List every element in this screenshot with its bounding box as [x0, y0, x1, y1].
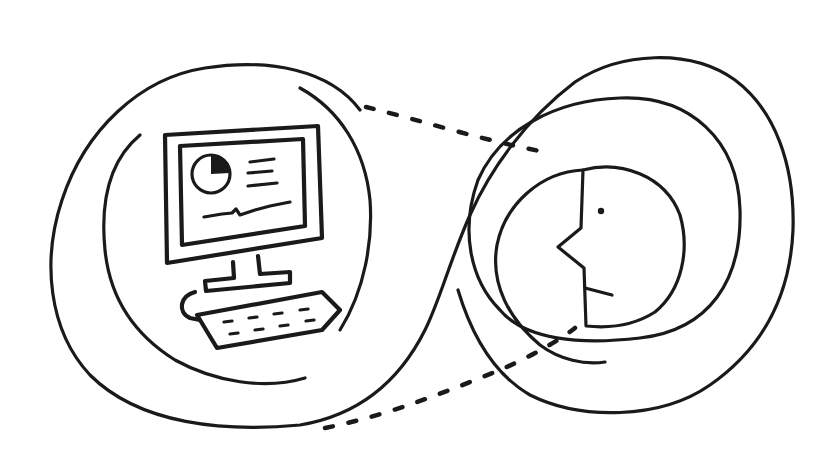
right-middle-ring [469, 98, 740, 341]
screen-text-line-3 [248, 183, 277, 186]
pie-chart-slice [211, 155, 230, 174]
human-computer-interaction-illustration [0, 0, 827, 469]
monitor-screen [180, 139, 305, 245]
monitor-stand [205, 256, 290, 291]
screen-trend-line [204, 202, 290, 217]
keyboard-icon [197, 292, 340, 348]
mouth-line [585, 288, 612, 295]
eye-icon [598, 208, 604, 214]
face-outline [558, 167, 684, 327]
illustration-canvas: Hand-drawn line art: a desktop computer … [0, 0, 827, 469]
left-inner-arc [104, 135, 305, 384]
screen-text-line-2 [248, 171, 272, 173]
computer-icon [165, 126, 340, 348]
screen-text-line-1 [250, 159, 274, 162]
left-outer-loop [51, 58, 793, 428]
face-left-arc [496, 170, 605, 363]
keyboard-key-row-1 [224, 309, 308, 322]
